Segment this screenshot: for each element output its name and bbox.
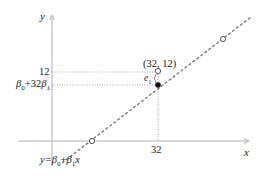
regression-equation-label: y=β0+β1x [40, 155, 80, 168]
x-tick-32: 32 [151, 145, 162, 156]
x-axis-label: x [244, 147, 249, 158]
data-point-lower [89, 138, 94, 143]
residual-label: e1 [144, 74, 151, 85]
y-tick-fitted-label: β0+32β1 [16, 79, 50, 92]
eq-var: x [75, 154, 80, 165]
point-coordinate-label: (32, 12) [143, 59, 176, 70]
plus-32: +32 [25, 78, 41, 89]
eq-prefix: y= [40, 154, 52, 165]
fitted-point [155, 82, 161, 88]
residual-bracket [155, 74, 157, 83]
subscript-1: 1 [46, 84, 50, 92]
residual-subscript: 1 [148, 78, 151, 85]
y-axis-label: y [40, 11, 45, 22]
y-tick-12: 12 [39, 67, 50, 78]
data-point-upper [220, 36, 225, 41]
